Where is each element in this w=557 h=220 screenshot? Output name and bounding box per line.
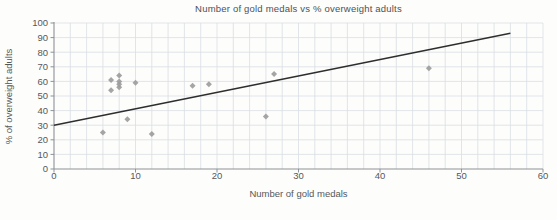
- y-tick-label: 60: [37, 76, 48, 87]
- data-point: [149, 131, 155, 137]
- y-tick-label: 20: [37, 134, 48, 145]
- x-tick-label: 50: [456, 170, 467, 181]
- data-point: [116, 73, 122, 79]
- y-axis-label: % of overweight adults: [3, 32, 14, 162]
- chart-title: Number of gold medals vs % overweight ad…: [54, 3, 543, 14]
- y-tick-label: 0: [43, 163, 48, 174]
- scatter-chart: 01020304050600102030405060708090100 Numb…: [0, 0, 557, 220]
- x-axis-label: Number of gold medals: [54, 188, 543, 199]
- data-point: [426, 65, 432, 71]
- x-tick-label: 10: [130, 170, 141, 181]
- data-point: [263, 113, 269, 119]
- y-tick-label: 30: [37, 120, 48, 131]
- data-point: [206, 81, 212, 87]
- data-point: [108, 77, 114, 83]
- y-tick-label: 90: [37, 32, 48, 43]
- y-tick-label: 40: [37, 105, 48, 116]
- data-point: [108, 87, 114, 93]
- x-tick-label: 20: [212, 170, 223, 181]
- y-tick-label: 10: [37, 149, 48, 160]
- data-point: [100, 130, 106, 136]
- data-point: [271, 71, 277, 77]
- y-tick-label: 50: [37, 90, 48, 101]
- y-tick-label: 100: [32, 17, 48, 28]
- x-tick-label: 30: [293, 170, 304, 181]
- data-point: [133, 80, 139, 86]
- chart-canvas: 01020304050600102030405060708090100: [0, 0, 557, 220]
- data-point: [190, 83, 196, 89]
- x-tick-label: 40: [375, 170, 386, 181]
- x-tick-label: 60: [538, 170, 549, 181]
- x-tick-label: 0: [51, 170, 56, 181]
- y-tick-label: 70: [37, 61, 48, 72]
- data-point: [124, 116, 130, 122]
- y-tick-label: 80: [37, 47, 48, 58]
